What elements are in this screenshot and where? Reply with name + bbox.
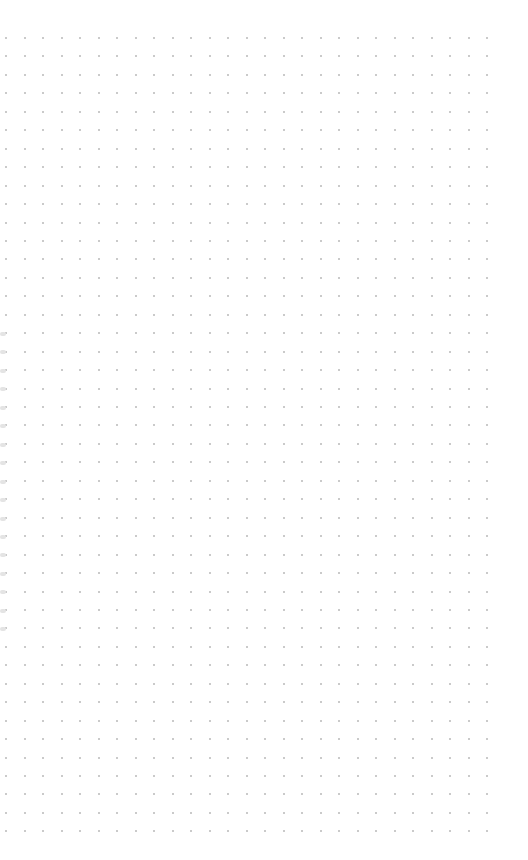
grid-dot bbox=[135, 74, 137, 76]
grid-dot bbox=[24, 424, 26, 426]
grid-dot bbox=[172, 351, 174, 353]
grid-dot bbox=[320, 277, 322, 279]
grid-dot bbox=[338, 240, 340, 242]
grid-dot bbox=[24, 591, 26, 593]
grid-dot bbox=[79, 92, 81, 94]
grid-dot bbox=[486, 332, 488, 334]
grid-dot bbox=[412, 480, 414, 482]
grid-dot bbox=[24, 498, 26, 500]
grid-dot bbox=[172, 443, 174, 445]
grid-dot bbox=[5, 683, 7, 685]
grid-dot bbox=[320, 92, 322, 94]
grid-dot bbox=[5, 148, 7, 150]
grid-dot bbox=[116, 627, 118, 629]
grid-dot bbox=[42, 203, 44, 205]
grid-dot bbox=[24, 609, 26, 611]
grid-dot bbox=[468, 480, 470, 482]
grid-dot bbox=[24, 314, 26, 316]
grid-dot bbox=[412, 406, 414, 408]
grid-dot bbox=[394, 683, 396, 685]
grid-dot bbox=[338, 37, 340, 39]
grid-dot bbox=[375, 443, 377, 445]
grid-dot bbox=[116, 388, 118, 390]
grid-dot bbox=[246, 166, 248, 168]
grid-dot bbox=[246, 480, 248, 482]
grid-dot bbox=[412, 388, 414, 390]
grid-dot bbox=[79, 609, 81, 611]
grid-dot bbox=[320, 480, 322, 482]
grid-dot bbox=[468, 812, 470, 814]
grid-dot bbox=[135, 166, 137, 168]
grid-dot bbox=[320, 664, 322, 666]
grid-dot bbox=[449, 185, 451, 187]
grid-dot bbox=[431, 443, 433, 445]
grid-dot bbox=[24, 388, 26, 390]
grid-dot bbox=[264, 480, 266, 482]
grid-dot bbox=[24, 720, 26, 722]
grid-dot bbox=[116, 793, 118, 795]
grid-dot bbox=[227, 701, 229, 703]
grid-dot bbox=[338, 701, 340, 703]
grid-dot bbox=[264, 720, 266, 722]
grid-dot bbox=[24, 830, 26, 832]
grid-dot bbox=[5, 720, 7, 722]
grid-dot bbox=[431, 664, 433, 666]
grid-dot bbox=[42, 830, 44, 832]
grid-dot bbox=[5, 185, 7, 187]
grid-dot bbox=[283, 498, 285, 500]
grid-dot bbox=[320, 554, 322, 556]
grid-dot bbox=[209, 277, 211, 279]
grid-dot bbox=[468, 277, 470, 279]
grid-dot bbox=[486, 830, 488, 832]
grid-dot bbox=[42, 609, 44, 611]
grid-dot bbox=[227, 738, 229, 740]
grid-dot bbox=[412, 757, 414, 759]
grid-dot bbox=[338, 185, 340, 187]
grid-dot bbox=[283, 591, 285, 593]
grid-dot bbox=[486, 277, 488, 279]
grid-dot bbox=[61, 554, 63, 556]
grid-dot bbox=[394, 535, 396, 537]
grid-dot bbox=[172, 295, 174, 297]
grid-dot bbox=[431, 775, 433, 777]
grid-dot bbox=[320, 572, 322, 574]
grid-dot bbox=[338, 92, 340, 94]
grid-dot bbox=[172, 55, 174, 57]
grid-dot bbox=[264, 701, 266, 703]
grid-dot bbox=[431, 812, 433, 814]
grid-dot bbox=[135, 258, 137, 260]
grid-dot bbox=[172, 664, 174, 666]
grid-dot bbox=[79, 480, 81, 482]
grid-dot bbox=[116, 609, 118, 611]
grid-dot bbox=[412, 793, 414, 795]
grid-dot bbox=[246, 517, 248, 519]
grid-dot bbox=[449, 129, 451, 131]
grid-dot bbox=[320, 701, 322, 703]
grid-dot bbox=[301, 443, 303, 445]
grid-dot bbox=[246, 627, 248, 629]
grid-dot bbox=[61, 222, 63, 224]
grid-dot bbox=[5, 258, 7, 260]
grid-dot bbox=[394, 129, 396, 131]
grid-dot bbox=[412, 738, 414, 740]
grid-dot bbox=[449, 480, 451, 482]
grid-dot bbox=[209, 222, 211, 224]
grid-dot bbox=[190, 738, 192, 740]
grid-dot bbox=[190, 720, 192, 722]
grid-dot bbox=[301, 92, 303, 94]
grid-dot bbox=[394, 627, 396, 629]
grid-dot bbox=[227, 388, 229, 390]
grid-dot bbox=[375, 148, 377, 150]
grid-dot bbox=[172, 111, 174, 113]
grid-dot bbox=[98, 683, 100, 685]
grid-dot bbox=[79, 388, 81, 390]
grid-dot bbox=[209, 498, 211, 500]
grid-dot bbox=[135, 314, 137, 316]
grid-dot bbox=[190, 314, 192, 316]
grid-dot bbox=[246, 203, 248, 205]
grid-dot bbox=[227, 517, 229, 519]
grid-dot bbox=[468, 424, 470, 426]
grid-dot bbox=[338, 609, 340, 611]
grid-dot bbox=[42, 757, 44, 759]
grid-dot bbox=[375, 37, 377, 39]
